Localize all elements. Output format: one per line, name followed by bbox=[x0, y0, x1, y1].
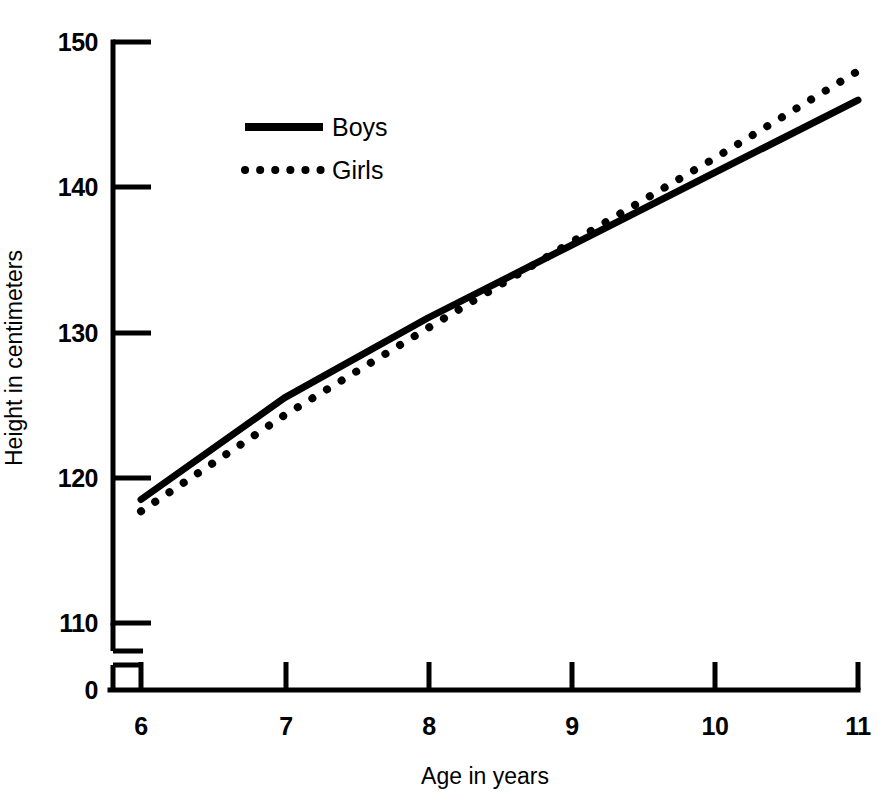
y-tick-label-140: 140 bbox=[10, 173, 98, 202]
y-tick-label-120: 120 bbox=[10, 464, 98, 493]
x-tick-label-10: 10 bbox=[702, 712, 729, 741]
y-axis-origin-label: 0 bbox=[10, 676, 98, 705]
x-tick-label-9: 9 bbox=[565, 712, 578, 741]
y-tick-label-150: 150 bbox=[10, 28, 98, 57]
x-tick-label-7: 7 bbox=[279, 712, 292, 741]
x-tick-label-11: 11 bbox=[845, 712, 870, 741]
x-tick-label-6: 6 bbox=[134, 712, 147, 741]
series-line-boys bbox=[141, 100, 858, 499]
y-tick-label-110: 110 bbox=[10, 609, 98, 638]
chart-plot-area bbox=[0, 0, 885, 808]
legend-label-girls: Girls bbox=[332, 156, 383, 185]
series-line-girls bbox=[141, 71, 858, 511]
x-tick-label-8: 8 bbox=[422, 712, 435, 741]
y-axis-title: Height in centimeters bbox=[1, 250, 28, 466]
x-axis-title: Age in years bbox=[421, 763, 549, 790]
chart-container: 150 140 130 120 110 0 6 7 8 9 10 11 Heig… bbox=[0, 0, 885, 808]
legend-label-boys: Boys bbox=[332, 113, 388, 142]
